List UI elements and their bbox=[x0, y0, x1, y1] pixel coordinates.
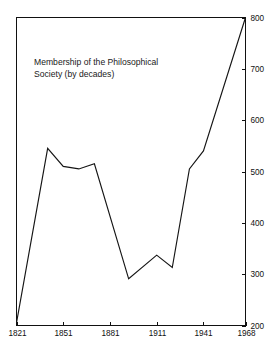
x-axis-ticks bbox=[18, 322, 247, 326]
x-tick-label-1851: 1851 bbox=[54, 329, 73, 338]
y-tick-label-700: 700 bbox=[251, 65, 265, 74]
x-axis-tick-labels: 182118511881191119411968 bbox=[8, 329, 256, 338]
y-tick-label-800: 800 bbox=[251, 14, 265, 23]
y-tick-label-300: 300 bbox=[251, 270, 265, 279]
chart-title-line1: Membership of the Philosophical bbox=[34, 57, 158, 67]
y-tick-label-600: 600 bbox=[251, 116, 265, 125]
y-axis-tick-labels: 200300400500600700800 bbox=[251, 14, 265, 331]
line-chart: 200300400500600700800 182118511881191119… bbox=[0, 0, 279, 363]
chart-title-line2: Society (by decades) bbox=[34, 69, 114, 79]
x-tick-label-1881: 1881 bbox=[101, 329, 120, 338]
x-tick-label-1911: 1911 bbox=[149, 329, 167, 338]
x-tick-label-1968: 1968 bbox=[237, 329, 256, 338]
y-axis-ticks bbox=[242, 19, 246, 327]
x-tick-label-1821: 1821 bbox=[8, 329, 27, 338]
chart-figure: 200300400500600700800 182118511881191119… bbox=[0, 0, 279, 363]
x-tick-label-1941: 1941 bbox=[194, 329, 213, 338]
y-tick-label-500: 500 bbox=[251, 168, 265, 177]
y-tick-label-400: 400 bbox=[251, 219, 265, 228]
